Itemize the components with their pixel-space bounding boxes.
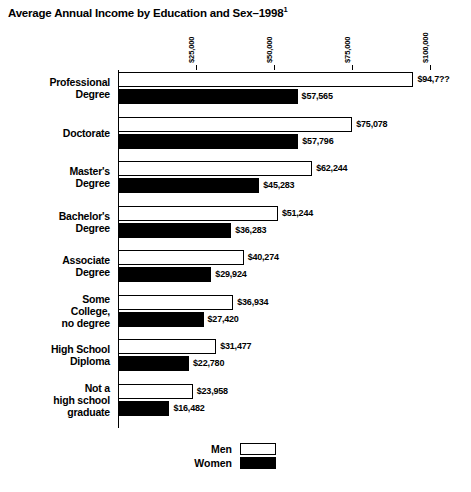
- bar-value-women: $57,796: [302, 134, 333, 149]
- income-by-education-chart: Average Annual Income by Education and S…: [0, 0, 471, 492]
- bar-value-men: $23,958: [197, 384, 228, 399]
- bar-men: [118, 72, 413, 87]
- bar-women: [118, 312, 204, 327]
- category-label-line: high school: [0, 394, 110, 406]
- category-label: Bachelor'sDegree: [0, 210, 118, 234]
- bar-women: [118, 356, 189, 371]
- x-axis-ticks: $25,000$50,000$75,000$100,000: [118, 28, 430, 70]
- bar-value-women: $45,283: [263, 178, 294, 193]
- category-label-line: College,: [0, 305, 110, 317]
- chart-title: Average Annual Income by Education and S…: [8, 5, 287, 19]
- bar-value-women: $16,482: [173, 401, 204, 416]
- category-label-line: graduate: [0, 406, 110, 418]
- category-label: Doctorate: [0, 127, 118, 139]
- category-label-line: Doctorate: [0, 127, 110, 139]
- bar-value-men: $94,7??: [417, 72, 449, 87]
- category-label-line: Degree: [0, 177, 110, 189]
- x-axis-tick-label: $50,000: [265, 37, 274, 63]
- bar-women: [118, 134, 298, 149]
- category-label: ProfessionalDegree: [0, 76, 118, 100]
- category-label-line: no degree: [0, 317, 110, 329]
- bar-value-women: $29,924: [215, 267, 246, 282]
- x-axis-tick-label: $100,000: [421, 33, 430, 63]
- bar-women: [118, 89, 298, 104]
- legend-swatch-men: [240, 443, 276, 455]
- bar-women: [118, 401, 169, 416]
- bar-group: High SchoolDiploma$31,477$22,780: [118, 339, 430, 384]
- legend-swatch-women: [240, 457, 276, 469]
- bar-value-men: $75,078: [356, 117, 387, 132]
- bar-group: Doctorate$75,078$57,796: [118, 117, 430, 162]
- category-label: SomeCollege,no degree: [0, 293, 118, 329]
- bar-men: [118, 384, 193, 399]
- chart-title-footnote-marker: 1: [283, 5, 287, 14]
- bar-value-men: $40,274: [248, 250, 279, 265]
- legend-item-women: Women: [150, 457, 310, 469]
- legend-label-men: Men: [142, 443, 232, 455]
- category-label-line: Professional: [0, 76, 110, 88]
- bar-value-women: $27,420: [208, 312, 239, 327]
- bar-men: [118, 206, 278, 221]
- bar-value-men: $36,934: [237, 295, 268, 310]
- chart-legend: Men Women: [150, 443, 310, 471]
- category-label-line: Degree: [0, 266, 110, 278]
- bar-value-women: $22,780: [193, 356, 224, 371]
- category-label-line: Not a: [0, 382, 110, 394]
- bar-value-men: $51,244: [282, 206, 313, 221]
- bar-value-men: $62,244: [316, 161, 347, 176]
- bar-men: [118, 117, 352, 132]
- x-axis-tick-mark: [430, 65, 431, 70]
- category-label-line: High School: [0, 343, 110, 355]
- chart-title-text: Average Annual Income by Education and S…: [8, 7, 283, 19]
- category-label: High SchoolDiploma: [0, 343, 118, 367]
- legend-item-men: Men: [150, 443, 310, 455]
- category-label-line: Bachelor's: [0, 210, 110, 222]
- category-label-line: Some: [0, 293, 110, 305]
- category-label: Not ahigh schoolgraduate: [0, 382, 118, 418]
- bar-value-women: $36,283: [235, 223, 266, 238]
- x-axis-tick-label: $25,000: [187, 37, 196, 63]
- category-label: AssociateDegree: [0, 254, 118, 278]
- category-label-line: Degree: [0, 222, 110, 234]
- bar-men: [118, 295, 233, 310]
- bar-group: Bachelor'sDegree$51,244$36,283: [118, 206, 430, 251]
- legend-label-women: Women: [142, 457, 232, 469]
- bar-group: AssociateDegree$40,274$29,924: [118, 250, 430, 295]
- x-axis-tick-label: $75,000: [343, 37, 352, 63]
- bar-group: Master'sDegree$62,244$45,283: [118, 161, 430, 206]
- bar-women: [118, 223, 231, 238]
- plot-area: ProfessionalDegree$94,7??$57,565Doctorat…: [118, 70, 430, 426]
- category-label-line: Associate: [0, 254, 110, 266]
- bar-women: [118, 267, 211, 282]
- bar-value-men: $31,477: [220, 339, 251, 354]
- category-label: Master'sDegree: [0, 165, 118, 189]
- bar-group: ProfessionalDegree$94,7??$57,565: [118, 72, 430, 117]
- bar-group: Not ahigh schoolgraduate$23,958$16,482: [118, 384, 430, 429]
- bar-value-women: $57,565: [302, 89, 333, 104]
- category-label-line: Degree: [0, 88, 110, 100]
- bar-group: SomeCollege,no degree$36,934$27,420: [118, 295, 430, 340]
- bar-men: [118, 161, 312, 176]
- category-label-line: Diploma: [0, 355, 110, 367]
- category-label-line: Master's: [0, 165, 110, 177]
- bar-men: [118, 339, 216, 354]
- bar-women: [118, 178, 259, 193]
- bar-men: [118, 250, 244, 265]
